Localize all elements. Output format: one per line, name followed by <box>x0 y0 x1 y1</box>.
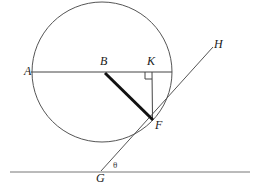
label-point-g: G <box>96 172 105 184</box>
geometry-canvas <box>0 0 258 193</box>
label-point-h: H <box>214 38 223 50</box>
radius-bf-line <box>105 73 153 120</box>
right-angle-marker-icon <box>145 72 152 79</box>
label-point-k: K <box>147 55 155 67</box>
geometry-diagram: A B K F H G θ <box>0 0 258 193</box>
segment-kf-line <box>152 72 153 119</box>
label-point-b: B <box>100 55 107 67</box>
tangent-gh-line <box>101 47 213 171</box>
label-point-a: A <box>24 65 31 77</box>
label-angle-theta: θ <box>113 161 117 170</box>
label-point-f: F <box>155 119 162 131</box>
